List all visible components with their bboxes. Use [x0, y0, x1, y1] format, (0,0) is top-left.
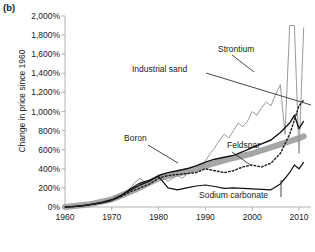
annotation-boron: Boron — [124, 133, 147, 143]
leader-line-industrial-sand — [206, 73, 311, 105]
leader-line-strontium — [232, 55, 254, 72]
annotation-feldspar: Feldspar — [227, 140, 260, 150]
leader-line-boron — [148, 145, 178, 163]
chart-plot-area — [0, 0, 315, 252]
figure-panel-b: (b) Change in price since 1960 0% 200% 4… — [0, 0, 315, 252]
axis-lines — [62, 16, 312, 211]
annotation-industrial-sand: Industrial sand — [132, 64, 187, 74]
annotation-strontium: Strontium — [218, 44, 254, 54]
annotation-sodium-carbonate: Sodium carbonate — [199, 190, 268, 200]
series-strontium — [65, 26, 304, 208]
